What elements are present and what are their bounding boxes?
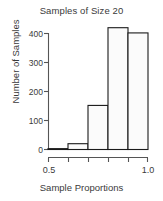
bar-bin-4 — [108, 28, 128, 150]
y-axis — [44, 33, 49, 150]
bar-bin-3 — [88, 105, 108, 149]
plot-canvas — [0, 0, 163, 201]
bars-group — [48, 28, 148, 150]
bar-bin-2 — [68, 144, 88, 150]
histogram-figure: Samples of Size 20 Number of Samples Sam… — [0, 0, 163, 201]
x-axis — [48, 158, 148, 163]
bar-bin-5 — [128, 33, 148, 150]
bar-bin-1 — [48, 149, 68, 150]
